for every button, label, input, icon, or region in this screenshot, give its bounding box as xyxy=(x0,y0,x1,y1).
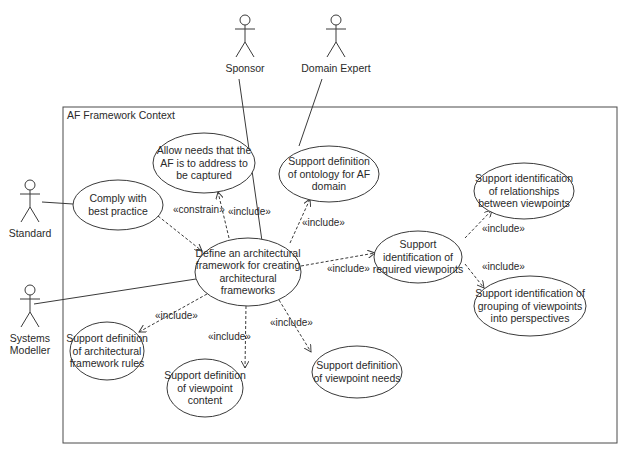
use-case-label: Support identification xyxy=(475,172,573,184)
use-case-label: Support definition xyxy=(288,155,370,167)
use-case-label: Comply with xyxy=(89,192,146,204)
use-case-label: frameworks xyxy=(221,284,275,296)
actor-label: Systems xyxy=(10,332,50,344)
use-case-relationships: Support identificationof relationshipsbe… xyxy=(474,163,574,219)
use-case-label: identification of xyxy=(383,251,453,263)
use-case-define-af: Define an architecturalframework for cre… xyxy=(195,238,301,306)
use-case-label: Support identification of xyxy=(475,287,585,299)
actor-label: Sponsor xyxy=(225,62,265,74)
dependency-arrow xyxy=(158,216,202,251)
stick-figure-icon xyxy=(235,15,255,57)
stereotype-label: «include» xyxy=(155,310,198,321)
use-case-label: Allow needs that the xyxy=(157,144,252,156)
actor-standard: Standard xyxy=(9,180,52,239)
stereotype-label: «include» xyxy=(270,317,313,328)
use-case-label: framework rules xyxy=(70,357,145,369)
use-case-label: architectural xyxy=(219,272,276,284)
actor-label: Domain Expert xyxy=(301,62,371,74)
use-case-rules: Support definitionof architecturalframew… xyxy=(66,322,148,380)
stick-figure-icon xyxy=(326,15,346,57)
association-line-systems-modeller xyxy=(34,279,196,304)
association-line-standard xyxy=(42,202,73,204)
use-case-label: of architectural xyxy=(73,345,142,357)
association-line-domain-expert xyxy=(299,79,322,146)
use-case-label: AF is to address to xyxy=(160,157,248,169)
actor-sponsor: Sponsor xyxy=(225,15,265,74)
stereotype-label: «constrain» xyxy=(173,204,225,215)
use-case-label: of viewpoint needs xyxy=(314,372,401,384)
use-case-label: framework for creating xyxy=(196,259,301,271)
actor-domain-expert: Domain Expert xyxy=(301,15,371,74)
use-case-label: required viewpoints xyxy=(373,263,463,275)
figure-caption-clipped xyxy=(150,451,550,459)
use-case-label: Support definition xyxy=(66,332,148,344)
use-case-label: of viewpoint xyxy=(177,382,233,394)
use-case-label: Support xyxy=(400,238,437,250)
stereotype-label: «include» xyxy=(228,206,271,217)
use-case-label: into perspectives xyxy=(491,312,570,324)
use-case-comply: Comply withbest practice xyxy=(73,180,163,230)
use-cases: Allow needs that theAF is to address tob… xyxy=(66,133,586,417)
stereotype-label: «include» xyxy=(327,263,370,274)
actor-label: Standard xyxy=(9,227,52,239)
use-case-label: content xyxy=(188,394,223,406)
stick-figure-icon xyxy=(20,285,40,327)
system-boundary-label: AF Framework Context xyxy=(67,109,175,121)
stereotype-label: «include» xyxy=(208,331,251,342)
use-case-label: domain xyxy=(312,180,347,192)
use-case-label: of relationships xyxy=(489,185,560,197)
use-case-grouping: Support identification ofgrouping of vie… xyxy=(474,276,586,336)
use-case-label: grouping of viewpoints xyxy=(478,300,582,312)
use-case-label: between viewpoints xyxy=(478,197,570,209)
stereotype-label: «include» xyxy=(482,223,525,234)
use-case-viewpoint-needs: Support definitionof viewpoint needs xyxy=(312,346,402,398)
use-case-label: Define an architectural xyxy=(195,247,300,259)
stereotype-label: «include» xyxy=(302,217,345,228)
use-case-required-viewpoints: Supportidentification ofrequired viewpoi… xyxy=(373,231,463,283)
use-case-label: best practice xyxy=(88,205,148,217)
actor-label: Modeller xyxy=(10,344,51,356)
use-case-label: Support definition xyxy=(164,369,246,381)
use-case-label: Support definition xyxy=(316,359,398,371)
actor-systems-modeller: SystemsModeller xyxy=(10,285,51,356)
use-case-label: be captured xyxy=(176,169,232,181)
use-case-label: of ontology for AF xyxy=(288,168,370,180)
stick-figure-icon xyxy=(20,180,40,222)
use-case-allow-needs: Allow needs that theAF is to address tob… xyxy=(153,133,255,193)
stereotype-label: «include» xyxy=(482,261,525,272)
use-case-viewpoint-content: Support definitionof viewpointcontent xyxy=(164,359,246,417)
use-case-ontology: Support definitionof ontology for AFdoma… xyxy=(279,146,379,202)
use-case-diagram: AF Framework Context «constrain»«include… xyxy=(0,0,625,459)
